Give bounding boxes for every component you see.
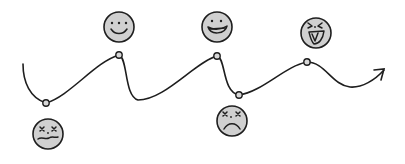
curve-node-2 — [116, 52, 122, 58]
dizzy-wavy-mouth-face-icon — [33, 119, 63, 149]
curve-node-3 — [214, 53, 220, 59]
emotion-journey-diagram: wavy line ending in arrow pointing right — [0, 0, 405, 164]
dizzy-frowning-face-icon — [217, 106, 247, 136]
journey-curve — [23, 55, 384, 103]
curve-node-4 — [236, 92, 242, 98]
curve-node-5 — [304, 59, 310, 65]
grinning-face-icon — [202, 12, 232, 42]
diagram-svg — [0, 0, 405, 164]
curve-node-1 — [43, 100, 49, 106]
smiling-face-icon — [104, 12, 134, 42]
laughing-squinting-face-icon — [301, 18, 331, 48]
